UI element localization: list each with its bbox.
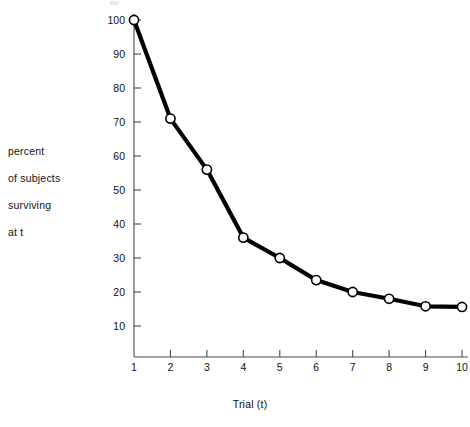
y-axis-tick-label: 50 — [113, 184, 125, 196]
y-axis-tick-label: 10 — [113, 320, 125, 332]
data-point-marker — [166, 114, 175, 123]
data-point-marker — [385, 294, 394, 303]
data-point-marker — [312, 276, 321, 285]
chart-container: percent of subjects surviving at t Trial… — [0, 0, 470, 427]
y-axis-tick-label: 100 — [107, 14, 125, 26]
x-axis-tick-label: 8 — [386, 361, 392, 373]
y-axis-tick-label: 30 — [113, 252, 125, 264]
data-point-marker — [129, 15, 138, 24]
x-axis-tick-label: 1 — [131, 361, 137, 373]
y-axis-tick-label: 90 — [113, 48, 125, 60]
x-axis-tick-label: 3 — [204, 361, 210, 373]
x-axis-tick-label: 7 — [350, 361, 356, 373]
x-axis-tick-label: 4 — [240, 361, 246, 373]
y-axis-tick-label: 70 — [113, 116, 125, 128]
data-point-marker — [457, 302, 466, 311]
x-axis-tick-label: 9 — [423, 361, 429, 373]
y-axis-tick-label: 40 — [113, 218, 125, 230]
x-axis-tick-group: 12345678910 — [131, 350, 468, 373]
x-axis-tick-label: 5 — [277, 361, 283, 373]
y-axis-tick-group: 102030405060708090100 — [107, 14, 141, 332]
x-axis-tick-label: 2 — [168, 361, 174, 373]
y-axis-tick-label: 80 — [113, 82, 125, 94]
data-point-marker — [421, 302, 430, 311]
data-point-marker — [202, 165, 211, 174]
y-axis-tick-label: 60 — [113, 150, 125, 162]
series-line-survival — [134, 20, 462, 307]
data-point-marker — [239, 233, 248, 242]
data-point-marker — [275, 253, 284, 262]
x-axis-tick-label: 6 — [313, 361, 319, 373]
data-point-marker — [348, 287, 357, 296]
plot-area: 102030405060708090100 12345678910 — [0, 0, 470, 427]
y-axis-tick-label: 20 — [113, 286, 125, 298]
x-axis-tick-label: 10 — [456, 361, 468, 373]
